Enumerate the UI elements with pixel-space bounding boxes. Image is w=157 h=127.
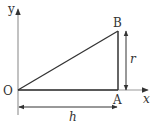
- x-axis-label: x: [143, 92, 150, 106]
- y-axis-label: y: [7, 2, 15, 16]
- origin-label: O: [3, 84, 13, 98]
- triangle-diagram: y x O A B r h: [0, 0, 157, 127]
- hypotenuse-ob: [18, 31, 118, 90]
- h-label: h: [69, 110, 77, 124]
- r-label: r: [130, 52, 137, 66]
- point-b-label: B: [113, 16, 122, 30]
- diagram-canvas: y x O A B r h: [0, 0, 157, 127]
- point-a-label: A: [112, 93, 122, 107]
